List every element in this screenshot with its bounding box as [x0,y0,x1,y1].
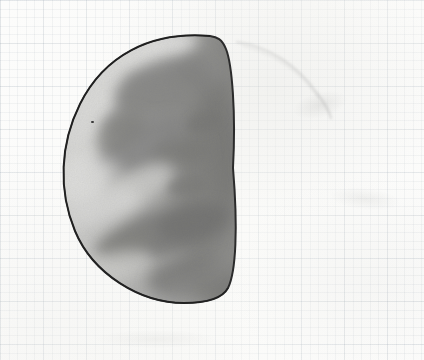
venus-disk-svg [0,0,424,360]
venus-disk-shading [34,17,266,320]
erased-construction-arc [236,42,331,119]
scanned-sheet [0,0,424,360]
venus-pencil-drawing [0,0,424,360]
